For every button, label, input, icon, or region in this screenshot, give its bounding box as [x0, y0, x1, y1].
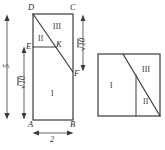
vertex-label-A: A [28, 120, 33, 129]
vertex-label-E: E [26, 42, 31, 51]
dimension-label-height-total: 5 [3, 58, 11, 74]
dimension-label-height-cf: √10 [78, 31, 87, 59]
region-label-right-III: III [142, 66, 150, 74]
dimension-label-width-ab: 2 [50, 136, 54, 144]
dim-arrow-cf-top [81, 15, 86, 22]
geometry-figure: D C E K F A B II III I 5 √10 √10 2 I III… [0, 0, 165, 150]
vertex-label-D: D [28, 3, 34, 12]
region-label-left-I: I [51, 90, 54, 98]
radicand-ae: 10 [18, 76, 27, 85]
square-cut-diagonal [123, 54, 160, 116]
region-label-left-III: III [53, 23, 61, 31]
vertex-label-K: K [56, 40, 62, 49]
region-label-right-II: II [143, 98, 148, 106]
dim-arrow-ae-bottom [22, 113, 27, 120]
dim-arrow-width-left [33, 131, 40, 136]
vertex-label-F: F [74, 69, 79, 78]
dim-arrow-width-right [67, 131, 74, 136]
dim-arrow-total-bottom [4, 113, 9, 120]
vertex-label-B: B [70, 120, 75, 129]
dim-arrow-cf-bottom [81, 65, 86, 72]
dimension-label-height-ae: √10 [18, 69, 27, 97]
radicand-cf: 10 [78, 38, 87, 47]
region-label-right-I: I [110, 82, 113, 90]
dim-arrow-total-top [4, 15, 9, 22]
region-label-left-II: II [38, 35, 43, 43]
vertex-label-C: C [70, 3, 76, 12]
